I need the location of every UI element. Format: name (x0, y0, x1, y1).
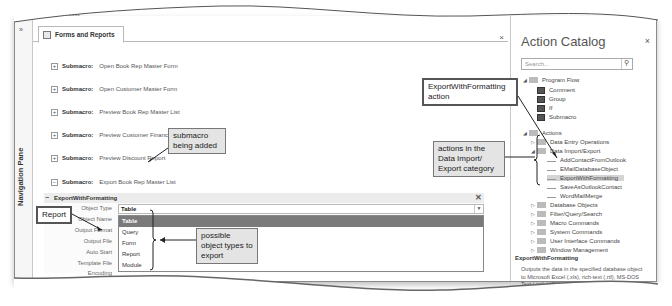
tree-action-comment[interactable]: Comment (537, 87, 575, 94)
expand-icon[interactable]: + (51, 86, 58, 93)
tree-folder-database-objects[interactable]: ▷Database Objects (531, 202, 598, 208)
tree-label: Data Import/Export (550, 148, 600, 154)
close-document-icon[interactable]: × (499, 33, 504, 42)
tree-folder-data-entry[interactable]: ▷Data Entry Operations (531, 139, 609, 145)
submacro-name: Open Customer Master Form (99, 86, 177, 92)
callout-exportwithformatting-action: ExportWithFormatting action (422, 78, 518, 106)
collapse-triangle-icon[interactable]: ◢ (531, 148, 535, 154)
folder-icon (529, 130, 538, 136)
search-icon[interactable]: ⚲ (621, 59, 631, 69)
tree-action-submacro[interactable]: Submacro (537, 114, 576, 121)
expand-triangle-icon[interactable]: ▷ (531, 220, 535, 226)
tree-folder-filter-query-search[interactable]: ▷Filter/Query/Search (531, 211, 602, 217)
submacro-keyword: Submacro: (62, 179, 93, 185)
submacro-row[interactable]: +Submacro:Open Customer Master Form (51, 86, 177, 93)
submacro-row[interactable]: +Submacro:Preview Book Rep Master List (51, 109, 180, 116)
expand-icon[interactable]: + (51, 109, 58, 116)
dropdown-option[interactable]: Module (119, 260, 483, 271)
folder-icon (537, 202, 546, 208)
macro-icon (43, 31, 51, 39)
dropdown-arrow-icon[interactable]: ▼ (474, 205, 483, 213)
tree-action-group[interactable]: Group (537, 96, 566, 103)
tree-folder-data-import-export[interactable]: ◢Data Import/Export (531, 148, 600, 154)
screenshot-stage: Tools » Navigation Pane Forms and Report… (0, 0, 672, 306)
tree-label: Macro Commands (550, 220, 599, 226)
expand-triangle-icon[interactable]: ▷ (531, 247, 535, 253)
expand-triangle-icon[interactable]: ▷ (531, 238, 535, 244)
tree-label: Database Objects (550, 202, 598, 208)
submacro-name: Preview Book Rep Master List (99, 109, 179, 115)
tree-folder-system-commands[interactable]: ▷System Commands (531, 229, 602, 235)
tree-label: SaveAsOutlookContact (560, 184, 622, 190)
tree-label: AddContactFromOutlook (560, 157, 626, 163)
collapse-icon[interactable]: − (45, 194, 49, 201)
shutter-bar-open-icon[interactable]: » (19, 26, 23, 33)
submacro-row[interactable]: +Submacro:Preview Discount Report (51, 155, 165, 162)
tree-label: Comment (549, 87, 575, 93)
action-icon (547, 159, 556, 162)
expand-icon[interactable]: + (51, 132, 58, 139)
tree-label: Window Management (550, 247, 608, 253)
catalog-description-text: Outputs the data in the specified databa… (521, 266, 643, 289)
folder-icon (537, 139, 546, 145)
catalog-title: Action Catalog (521, 34, 606, 49)
tree-action-exportwithformatting[interactable]: ExportWithFormatting (547, 175, 624, 181)
expand-icon[interactable]: + (51, 155, 58, 162)
submacro-name: Open Book Rep Master Form (99, 63, 177, 69)
tab-forms-and-reports[interactable]: Forms and Reports (38, 26, 124, 43)
object-type-combobox[interactable]: Table▼ (118, 204, 484, 214)
tree-folder-ui-commands[interactable]: ▷User Interface Commands (531, 238, 620, 244)
submacro-keyword: Submacro: (62, 109, 93, 115)
collapse-triangle-icon[interactable]: ◢ (523, 130, 527, 136)
tab-label: Forms and Reports (55, 31, 115, 38)
dropdown-option[interactable]: Form (119, 238, 483, 249)
action-icon (547, 195, 556, 198)
submacro-keyword: Submacro: (62, 63, 93, 69)
tree-action-emaildatabaseobject[interactable]: EMailDatabaseObject (547, 166, 618, 172)
catalog-search-input[interactable]: Search... ⚲ (521, 58, 633, 70)
tree-action-addcontactfromoutlook[interactable]: AddContactFromOutlook (547, 157, 626, 163)
arg-label: Encoding (44, 270, 112, 276)
expand-triangle-icon[interactable]: ▷ (531, 139, 535, 145)
collapse-triangle-icon[interactable]: ◢ (523, 77, 527, 83)
action-header[interactable]: − ExportWithFormatting ✕ (44, 193, 484, 203)
submacro-row[interactable]: +Submacro:Open Book Rep Master Form (51, 63, 178, 70)
submacro-row-new[interactable]: −Submacro:Export Book Rep Master List (51, 179, 176, 186)
folder-icon (529, 77, 538, 83)
submacro-action-icon (537, 114, 545, 121)
folder-icon (537, 238, 546, 244)
collapse-icon[interactable]: − (51, 179, 58, 186)
tree-folder-macro-commands[interactable]: ▷Macro Commands (531, 220, 599, 226)
tree-action-if[interactable]: If (537, 105, 552, 112)
dropdown-option[interactable]: Query (119, 227, 483, 238)
action-icon (547, 168, 556, 171)
folder-icon (537, 211, 546, 217)
navigation-pane[interactable]: » Navigation Pane (15, 16, 33, 282)
tree-folder-window-management[interactable]: ▷Window Management (531, 247, 608, 253)
expand-triangle-icon[interactable]: ▷ (531, 211, 535, 217)
tree-action-wordmailmerge[interactable]: WordMailMerge (547, 193, 602, 199)
expand-icon[interactable]: + (51, 63, 58, 70)
submacro-name: Export Book Rep Master List (99, 179, 175, 185)
delete-action-icon[interactable]: ✕ (475, 193, 482, 202)
tree-folder-actions[interactable]: ◢Actions (523, 130, 562, 136)
callout-report: Report (36, 206, 72, 224)
expand-triangle-icon[interactable]: ▷ (531, 202, 535, 208)
tree-label: Program Flow (542, 77, 579, 83)
object-type-dropdown-list[interactable]: Table Query Form Report Module (118, 215, 484, 272)
tree-folder-program-flow[interactable]: ◢Program Flow (523, 77, 579, 83)
arg-label: Auto Start (44, 249, 112, 255)
group-action-icon (537, 96, 545, 103)
dropdown-option-report[interactable]: Report (119, 249, 483, 260)
combobox-value: Table (121, 206, 136, 212)
close-catalog-icon[interactable]: × (645, 36, 650, 46)
if-action-icon (537, 105, 545, 112)
action-catalog-pane: Action Catalog × Search... ⚲ ◢Program Fl… (510, 16, 657, 282)
expand-triangle-icon[interactable]: ▷ (531, 229, 535, 235)
arg-label: Output Format (44, 227, 112, 233)
tree-label: User Interface Commands (550, 238, 620, 244)
document-tabbar: Forms and Reports × (33, 24, 508, 42)
tree-label: Filter/Query/Search (550, 211, 602, 217)
dropdown-option[interactable]: Table (119, 216, 483, 227)
tree-action-saveasoutlookcontact[interactable]: SaveAsOutlookContact (547, 184, 622, 190)
